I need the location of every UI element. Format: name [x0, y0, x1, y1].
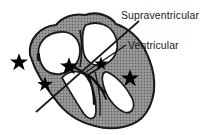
label-supraventricular: Supraventricular — [121, 9, 199, 21]
ostium-mark — [37, 53, 40, 61]
heart-conduction-figure: Supraventricular Ventricular — [0, 0, 220, 135]
star-marker-left-outer — [10, 53, 28, 70]
label-ventricular: Ventricular — [128, 39, 179, 51]
